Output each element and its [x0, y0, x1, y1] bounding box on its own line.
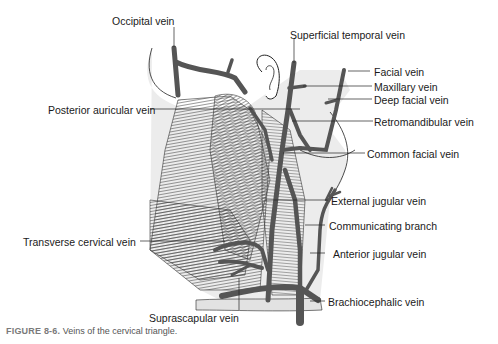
- label-transverse-cervical-vein: Transverse cervical vein: [23, 236, 136, 248]
- label-superficial-temporal-vein: Superficial temporal vein: [290, 29, 405, 41]
- label-external-jugular-vein: External jugular vein: [331, 195, 426, 207]
- label-posterior-auricular-vein: Posterior auricular vein: [48, 104, 155, 116]
- label-communicating-branch: Communicating branch: [329, 220, 437, 232]
- label-retromandibular-vein: Retromandibular vein: [374, 116, 474, 128]
- label-maxillary-vein: Maxillary vein: [374, 81, 438, 93]
- figure-number: FIGURE 8-6.: [6, 326, 60, 336]
- label-brachiocephalic-vein: Brachiocephalic vein: [328, 296, 424, 308]
- maxillary-vein: [289, 86, 305, 88]
- common-facial-vein: [282, 148, 300, 150]
- figure-caption: FIGURE 8-6. Veins of the cervical triang…: [6, 326, 177, 336]
- label-occipital-vein: Occipital vein: [112, 15, 174, 27]
- label-anterior-jugular-vein: Anterior jugular vein: [333, 248, 426, 260]
- figure-caption-text: Veins of the cervical triangle.: [63, 326, 178, 336]
- label-common-facial-vein: Common facial vein: [367, 148, 459, 160]
- label-deep-facial-vein: Deep facial vein: [374, 94, 449, 106]
- label-suprascapular-vein: Suprascapular vein: [149, 312, 239, 324]
- occipital-vein: [174, 48, 245, 95]
- cervical-veins-illustration: [0, 0, 498, 344]
- occipital-branch: [228, 60, 232, 72]
- neck-muscles: [150, 94, 305, 295]
- label-facial-vein: Facial vein: [374, 66, 424, 78]
